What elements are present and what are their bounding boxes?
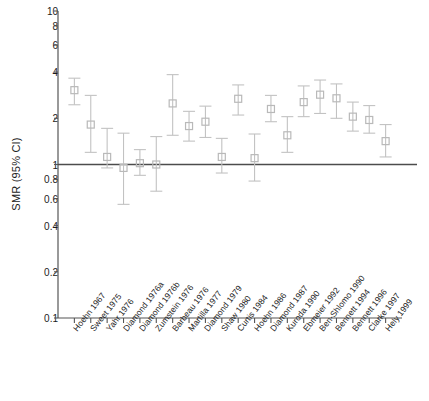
forest-plot-figure: SMR (95% CI) 0.10.20.40.60.81246810 Hoeh… — [0, 0, 429, 401]
plot-canvas — [0, 0, 429, 401]
